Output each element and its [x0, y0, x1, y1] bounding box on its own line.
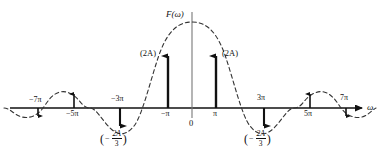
- left-trough-denominator: 3: [114, 140, 120, 148]
- amplitude-label-right-trough: ( − 2A 3 ): [244, 130, 271, 147]
- envelope-curve: [4, 22, 376, 134]
- amplitude-label-left-trough: ( − 2A 3 ): [100, 130, 127, 147]
- tick-label-minus-3pi: −3π: [111, 95, 124, 103]
- tick-label-minus-pi: −π: [161, 110, 170, 118]
- horizontal-axis-label: ω: [367, 103, 373, 112]
- left-trough-numerator: 2A: [112, 130, 122, 138]
- figure-canvas: [0, 0, 383, 152]
- fourier-spectrum-figure: F(ω) ω 0 (2A) (2A) ( − 2A 3 ) ( − 2A 3 )…: [0, 0, 383, 152]
- vertical-axis-label: F(ω): [166, 10, 184, 19]
- right-trough-denominator: 3: [258, 140, 264, 148]
- right-trough-minus-sign: −: [248, 135, 255, 143]
- left-trough-fraction: 2A 3: [112, 130, 122, 147]
- right-trough-numerator: 2A: [256, 130, 266, 138]
- tick-label-3pi: 3π: [257, 94, 265, 102]
- right-trough-close-paren: ): [267, 133, 271, 145]
- tick-label-pi: π: [213, 110, 217, 118]
- origin-label: 0: [189, 119, 193, 128]
- tick-label-minus-5pi: −5π: [66, 110, 79, 118]
- tick-label-minus-7pi: −7π: [29, 96, 42, 104]
- right-trough-fraction: 2A 3: [256, 130, 266, 147]
- amplitude-label-right-peak: (2A): [222, 49, 238, 58]
- amplitude-label-left-peak: (2A): [140, 49, 156, 58]
- tick-label-7pi: 7π: [340, 94, 348, 102]
- left-trough-close-paren: ): [123, 133, 127, 145]
- tick-label-5pi: 5π: [304, 110, 312, 118]
- left-trough-minus-sign: −: [104, 135, 111, 143]
